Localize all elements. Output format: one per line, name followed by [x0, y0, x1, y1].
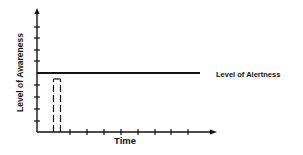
awareness-diagram: Level of Alertness Time Level of Awarene…	[0, 0, 303, 155]
y-axis-arrow-icon	[35, 8, 40, 14]
awareness-pulse	[54, 79, 61, 132]
x-axis-label: Time	[114, 135, 136, 146]
x-axis-arrow-icon	[210, 130, 217, 135]
alertness-label: Level of Alertness	[216, 70, 280, 79]
y-axis-label: Level of Awareness	[15, 33, 25, 112]
